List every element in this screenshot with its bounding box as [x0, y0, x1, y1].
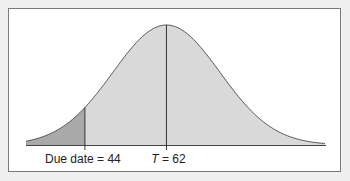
- mean-label: T = 62: [151, 152, 185, 166]
- due-date-label: Due date = 44: [45, 152, 121, 166]
